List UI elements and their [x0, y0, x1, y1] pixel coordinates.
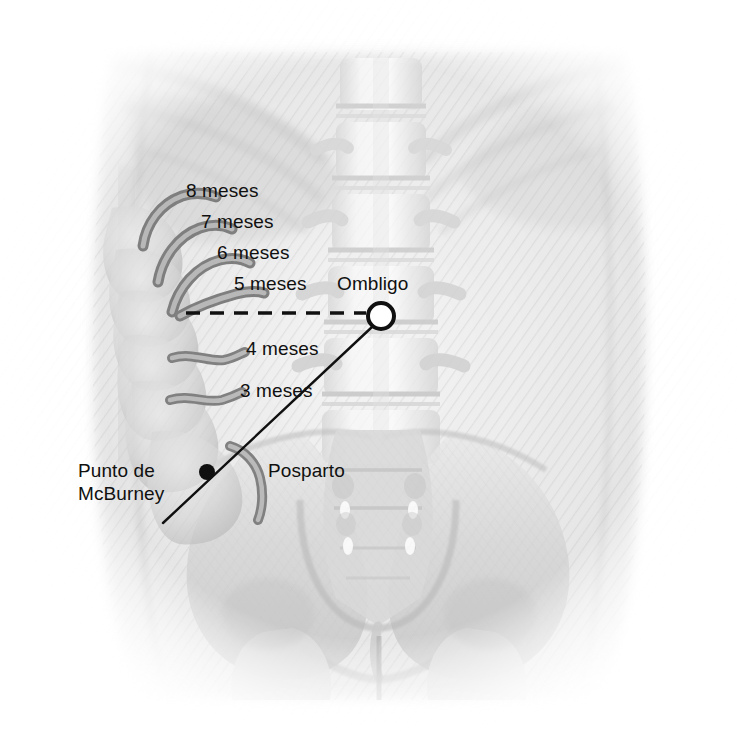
label-punto-mcburney: Punto de McBurney: [78, 459, 218, 505]
label-8-meses: 8 meses: [186, 179, 259, 202]
label-5-meses: 5 meses: [234, 272, 307, 295]
label-7-meses: 7 meses: [201, 210, 274, 233]
label-4-meses: 4 meses: [246, 337, 319, 360]
label-6-meses: 6 meses: [217, 241, 290, 264]
anatomical-figure: 8 meses 7 meses 6 meses 5 meses 4 meses …: [0, 0, 737, 731]
annotation-overlay: [0, 0, 737, 731]
label-3-meses: 3 meses: [240, 379, 313, 402]
label-ombligo: Ombligo: [337, 272, 408, 295]
label-posparto: Posparto: [268, 459, 345, 482]
label-punto-mcburney-line1: Punto de: [78, 459, 218, 482]
umbilicus-marker: [368, 303, 394, 329]
label-punto-mcburney-line2: McBurney: [78, 482, 218, 505]
